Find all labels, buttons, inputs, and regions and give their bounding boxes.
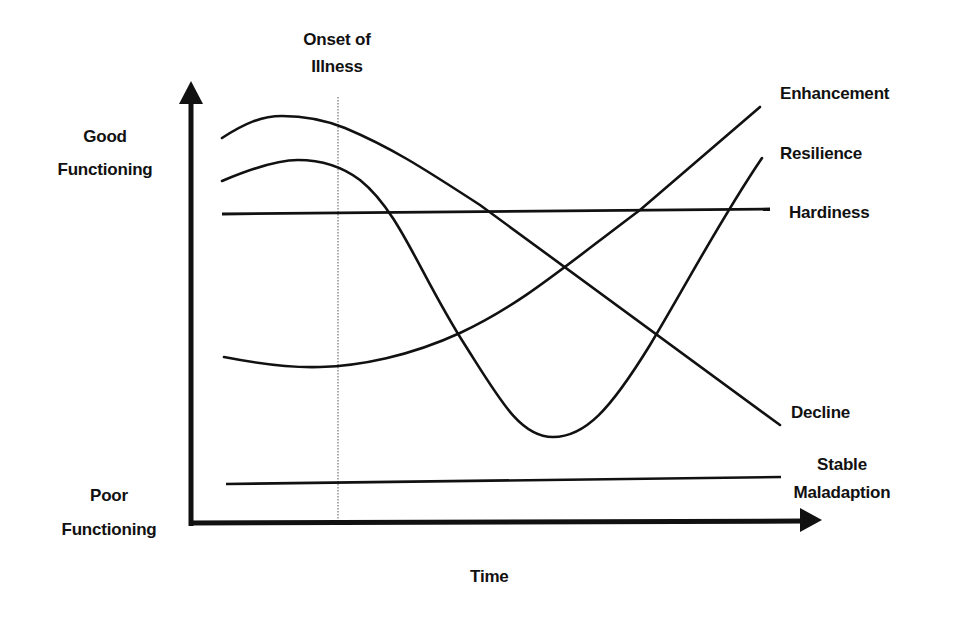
resilience-label: Resilience <box>780 144 862 164</box>
stable-maladaption-line2: Maladaption <box>782 483 902 503</box>
good-functioning-label: Good Functioning <box>45 127 165 180</box>
onset-label-line2: Illness <box>282 57 392 77</box>
poor-functioning-line1: Poor <box>49 486 169 506</box>
stable-maladaption-line <box>226 477 781 484</box>
poor-functioning-line2: Functioning <box>49 520 169 540</box>
stable-maladaption-label: Stable Maladaption <box>782 455 902 503</box>
stable-maladaption-line1: Stable <box>782 455 902 475</box>
trajectory-diagram: Onset of Illness Good Functioning Poor F… <box>0 0 957 621</box>
good-functioning-line1: Good <box>45 127 165 147</box>
x-axis-arrow-icon <box>800 508 822 532</box>
poor-functioning-label: Poor Functioning <box>49 486 169 540</box>
x-axis <box>189 521 804 523</box>
resilience-curve <box>222 158 762 437</box>
hardiness-label: Hardiness <box>789 203 869 223</box>
onset-label-line1: Onset of <box>282 30 392 50</box>
enhancement-label: Enhancement <box>780 84 889 104</box>
time-axis-label: Time <box>470 567 509 587</box>
good-functioning-line2: Functioning <box>45 160 165 180</box>
onset-label: Onset of Illness <box>282 30 392 77</box>
enhancement-curve <box>224 107 760 367</box>
y-axis-arrow-icon <box>179 81 203 104</box>
hardiness-line <box>222 209 770 214</box>
decline-label: Decline <box>791 403 850 423</box>
